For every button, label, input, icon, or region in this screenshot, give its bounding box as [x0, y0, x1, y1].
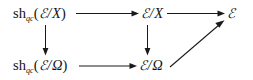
node-e-omega: ℰ/Ω [139, 58, 163, 73]
node-e-omega-script-e: ℰ [139, 57, 147, 73]
arrow-middle-vertical [145, 25, 151, 56]
commutative-diagram: shqc(ℰ/X) ℰ/X ℰ shqc(ℰ/Ω) ℰ/Ω [0, 0, 253, 80]
arrow-left-vertical [43, 25, 49, 56]
arrow-top-left-to-middle [76, 11, 139, 17]
node-e-x-script-e: ℰ [141, 5, 149, 21]
node-e-top-script-e: ℰ [227, 5, 235, 21]
node-sh-qc-e-omega-script-e: ℰ [39, 57, 47, 73]
node-e-x: ℰ/X [141, 6, 163, 21]
node-sh-qc-e-omega: shqc(ℰ/Ω) [13, 58, 67, 75]
node-sh-qc-e-omega-close-paren: ) [63, 57, 68, 73]
node-sh-qc-e-omega-var: Ω [52, 57, 63, 73]
arrow-diagonal [170, 20, 225, 67]
node-sh-qc-e-x-subscript: qc [26, 14, 34, 23]
node-sh-qc-e-x-close-paren: ) [61, 5, 66, 21]
node-sh-qc-e-omega-op: sh [13, 57, 26, 73]
node-e-top: ℰ [227, 6, 235, 21]
node-e-omega-var: Ω [152, 57, 163, 73]
arrow-bottom-left-to-middle [79, 63, 137, 69]
node-sh-qc-e-x: shqc(ℰ/X) [13, 6, 66, 23]
node-sh-qc-e-x-script-e: ℰ [39, 5, 47, 21]
node-e-x-var: X [154, 5, 163, 21]
node-sh-qc-e-x-op: sh [13, 5, 26, 21]
arrow-top-middle-to-right [167, 11, 225, 17]
node-sh-qc-e-omega-subscript: qc [26, 66, 34, 75]
node-sh-qc-e-x-var: X [52, 5, 61, 21]
